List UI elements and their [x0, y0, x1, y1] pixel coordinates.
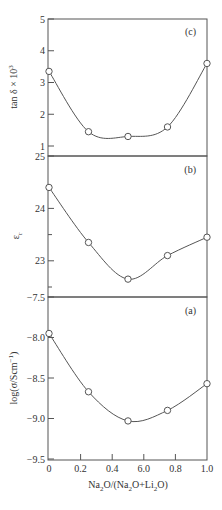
panel-b-markers: [46, 184, 210, 282]
panel-c-markers: [46, 60, 210, 139]
x-tick-label: 0.8: [169, 463, 182, 474]
panel-a-ylabel-main: log(σ/Scm: [8, 362, 20, 404]
panel-b-curve: [49, 187, 207, 279]
panel-a-ylabel-close: ): [8, 352, 20, 355]
data-point-marker: [46, 330, 52, 336]
panel-a-frame: [48, 297, 207, 460]
x-tick-label: 0.2: [74, 463, 87, 474]
data-point-marker: [125, 418, 131, 424]
panel-a-markers: [46, 330, 210, 424]
y-tick-label: −8.5: [27, 373, 45, 384]
data-point-marker: [164, 407, 170, 413]
x-axis-title-part-2: O/(Na: [103, 479, 129, 491]
y-tick-label: 23: [35, 255, 45, 266]
x-tick-label: 6.0: [138, 463, 151, 474]
panel-a: −9.5−9.0−8.5−8.0−7.5 00.20.46.00.81.0 (a…: [7, 292, 213, 494]
y-tick-label: 5: [40, 14, 45, 25]
panel-c-ylabel-main: tan δ × 10: [8, 69, 19, 109]
panel-a-ylabel: log(σ/Scm−1): [7, 352, 20, 405]
data-point-marker: [85, 389, 91, 395]
panel-b: 232425 (b) εr: [10, 151, 210, 298]
y-tick-label: 24: [35, 203, 45, 214]
panel-c-ylabel-sup: 3: [7, 65, 15, 69]
y-tick-label: −7.5: [27, 292, 45, 303]
panel-b-ylabel: εr: [10, 232, 24, 239]
panel-a-tag: (a): [185, 305, 196, 317]
data-point-marker: [125, 133, 131, 139]
stacked-chart-figure: 12345 (c) tan δ × 103 232425 (b) εr −9.5…: [0, 0, 222, 510]
panel-a-yticks: −9.5−9.0−8.5−8.0−7.5: [27, 292, 54, 465]
panel-c-tag: (c): [185, 26, 196, 38]
data-point-marker: [85, 239, 91, 245]
panel-b-ylabel-sub: r: [16, 232, 24, 235]
y-tick-label: −9.0: [27, 413, 45, 424]
panel-c: 12345 (c) tan δ × 103: [7, 14, 210, 157]
data-point-marker: [164, 252, 170, 258]
panel-c-curve: [49, 63, 207, 138]
x-tick-label: 0: [47, 463, 52, 474]
panel-c-yticks: 12345: [40, 14, 54, 152]
x-axis-title-part-6: O): [157, 479, 168, 491]
x-tick-label: 0.4: [106, 463, 119, 474]
chart-svg: 12345 (c) tan δ × 103 232425 (b) εr −9.5…: [0, 0, 222, 510]
x-axis-title: Na2O/(Na2O+Li2O): [88, 479, 167, 493]
y-tick-label: 4: [40, 45, 45, 56]
x-axis-title-part-0: Na: [88, 479, 100, 490]
y-tick-label: −9.5: [27, 454, 45, 465]
x-tick-label: 1.0: [201, 463, 214, 474]
data-point-marker: [204, 234, 210, 240]
data-point-marker: [164, 124, 170, 130]
y-tick-label: 25: [35, 151, 45, 162]
x-axis-title-part-4: O+Li: [132, 479, 154, 490]
data-point-marker: [204, 60, 210, 66]
data-point-marker: [85, 129, 91, 135]
data-point-marker: [125, 276, 131, 282]
data-point-marker: [46, 184, 52, 190]
panel-c-ylabel: tan δ × 103: [7, 65, 19, 109]
y-tick-label: 3: [40, 77, 45, 88]
x-axis-ticks: 00.20.46.00.81.0: [47, 454, 214, 474]
y-tick-label: −8.0: [27, 332, 45, 343]
panel-b-tag: (b): [184, 164, 196, 176]
data-point-marker: [46, 68, 52, 74]
y-tick-label: 2: [40, 109, 45, 120]
panel-a-curve: [49, 333, 207, 421]
panel-b-yticks: 232425: [35, 151, 54, 288]
data-point-marker: [204, 380, 210, 386]
